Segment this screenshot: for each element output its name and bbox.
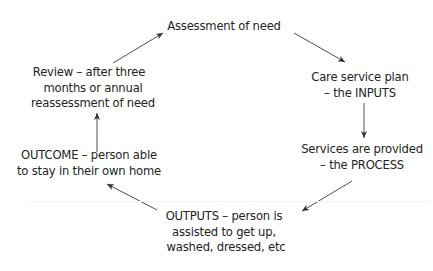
node-line: Care service plan <box>300 70 420 86</box>
arrow-assessment-to-care-plan <box>294 33 345 62</box>
node-services: Services are provided – the PROCESS <box>292 142 432 173</box>
node-line: months or annual <box>26 81 160 97</box>
scan-artifact <box>30 201 430 202</box>
node-line: – the PROCESS <box>292 158 432 174</box>
node-line: Services are provided <box>292 142 432 158</box>
arrow-review-to-assessment <box>113 33 163 63</box>
node-line: assisted to get up, <box>150 225 298 241</box>
node-line: to stay in their own home <box>8 164 170 180</box>
node-line: – the INPUTS <box>300 86 420 102</box>
arrow-outputs-to-outcome <box>107 184 157 210</box>
node-outcome: OUTCOME – person able to stay in their o… <box>8 148 170 179</box>
node-line: OUTCOME – person able <box>8 148 170 164</box>
node-care-plan: Care service plan – the INPUTS <box>300 70 420 101</box>
node-line: OUTPUTS – person is <box>150 209 298 225</box>
arrow-services-to-outputs <box>302 181 352 211</box>
node-review: Review – after three months or annual re… <box>26 65 160 112</box>
node-assessment: Assessment of need <box>164 19 284 35</box>
node-line: Assessment of need <box>164 19 284 35</box>
node-outputs: OUTPUTS – person is assisted to get up, … <box>150 209 298 256</box>
node-line: reassessment of need <box>26 96 160 112</box>
node-line: washed, dressed, etc <box>150 240 298 256</box>
node-line: Review – after three <box>26 65 160 81</box>
